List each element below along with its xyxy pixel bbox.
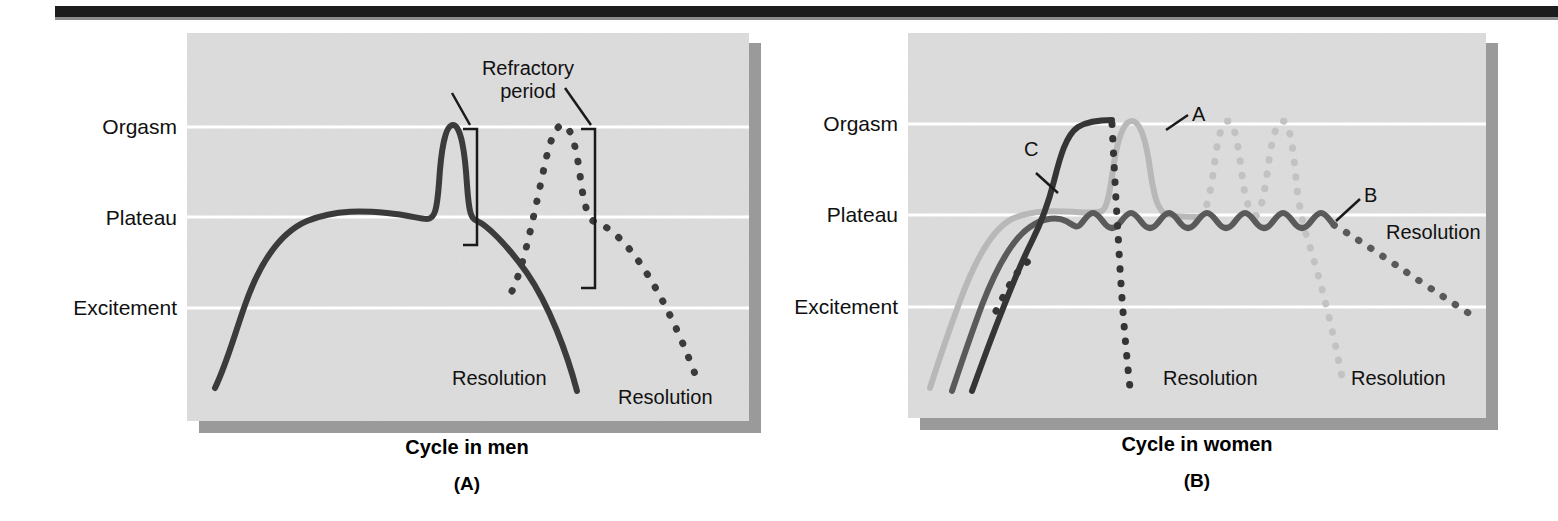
- annotation-curve-label-b: B: [1364, 184, 1377, 207]
- top-rule-bar: [55, 6, 1558, 17]
- axis-label-orgasm-a: Orgasm: [40, 115, 177, 139]
- annotation-resolution-men-solid: Resolution: [452, 367, 547, 390]
- figure-root: Orgasm Plateau Excitement Refractory per…: [0, 0, 1558, 521]
- panel-a-shadow-right: [749, 43, 761, 433]
- annotation-resolution-women-a: Resolution: [1351, 367, 1446, 390]
- axis-label-plateau-a: Plateau: [40, 206, 177, 230]
- annotation-refractory-period: Refractory period: [463, 57, 593, 103]
- annotation-curve-label-a: A: [1192, 103, 1205, 126]
- panel-letter-a: (A): [287, 473, 647, 495]
- axis-label-excitement-b: Excitement: [740, 295, 898, 319]
- annotation-resolution-women-c: Resolution: [1163, 367, 1258, 390]
- axis-label-excitement-a: Excitement: [20, 296, 177, 320]
- panel-a-shadow-bottom: [199, 421, 761, 433]
- annotation-resolution-women-b: Resolution: [1386, 221, 1481, 244]
- axis-label-plateau-b: Plateau: [760, 203, 898, 227]
- annotation-curve-label-c: C: [1024, 138, 1038, 161]
- panel-letter-b: (B): [1017, 470, 1377, 492]
- axis-label-orgasm-b: Orgasm: [760, 112, 898, 136]
- annotation-resolution-men-dotted: Resolution: [618, 386, 713, 409]
- caption-cycle-in-women: Cycle in women: [1017, 433, 1377, 456]
- refractory-line-2: period: [463, 80, 593, 103]
- refractory-line-1: Refractory: [463, 57, 593, 80]
- panel-b-shadow-bottom: [920, 418, 1498, 430]
- panel-b-shadow-right: [1486, 43, 1498, 430]
- caption-cycle-in-men: Cycle in men: [287, 436, 647, 459]
